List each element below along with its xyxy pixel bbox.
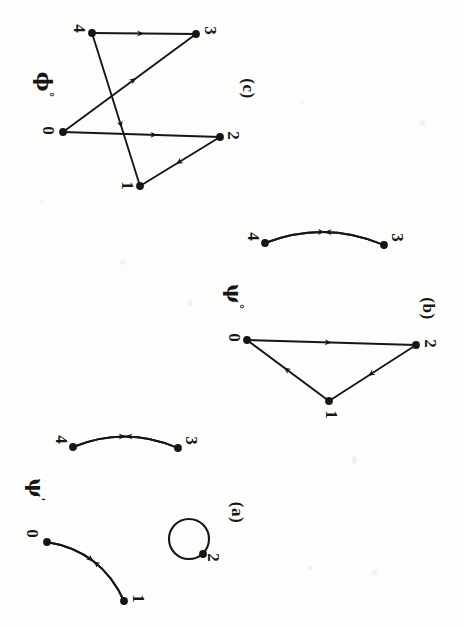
paper-speckle bbox=[372, 570, 377, 575]
panel-caption-c: (c) bbox=[240, 73, 257, 105]
graph-node-dot bbox=[381, 242, 387, 248]
paper-speckle bbox=[420, 120, 425, 125]
graph-node-dot bbox=[137, 183, 143, 189]
map-label-superscript: ° bbox=[42, 92, 55, 98]
node-label-3: 3 bbox=[202, 24, 219, 38]
graph-node-dot bbox=[60, 129, 66, 135]
node-label-4: 4 bbox=[71, 22, 88, 36]
map-label-base: ψ bbox=[222, 284, 247, 304]
graph-node-dot bbox=[121, 598, 127, 604]
graph-edge bbox=[265, 232, 384, 245]
graph-edge bbox=[92, 33, 140, 186]
map-label-superscript: ' bbox=[34, 498, 47, 501]
node-label-0: 0 bbox=[40, 124, 57, 138]
paper-speckle bbox=[352, 456, 357, 464]
graph-edge bbox=[140, 137, 220, 186]
graph-figure-svg bbox=[0, 0, 464, 627]
node-label-1: 1 bbox=[119, 179, 136, 193]
node-label-4: 4 bbox=[53, 433, 70, 447]
panel-caption-b: (b) bbox=[420, 293, 437, 325]
graph-edge bbox=[63, 132, 220, 137]
panel-caption-a: (a) bbox=[229, 497, 246, 529]
paper-speckle bbox=[188, 300, 192, 306]
node-label-1: 1 bbox=[130, 592, 147, 606]
map-label-c: ϕ° bbox=[34, 69, 55, 101]
paper-speckle bbox=[40, 200, 44, 204]
map-label-b: ψ° bbox=[224, 281, 245, 313]
node-label-1: 1 bbox=[323, 408, 340, 422]
node-label-3: 3 bbox=[183, 434, 200, 448]
node-label-0: 0 bbox=[226, 331, 243, 345]
map-label-base: ψ bbox=[24, 478, 49, 498]
paper-speckle bbox=[300, 100, 304, 104]
graph-node-dot bbox=[175, 445, 181, 451]
node-label-2: 2 bbox=[205, 551, 222, 565]
map-label-a: ψ' bbox=[26, 474, 47, 506]
node-label-2: 2 bbox=[225, 129, 242, 143]
figure-page: 43012(a)ψ'43021(b)ψ°43021(c)ϕ° bbox=[0, 0, 464, 627]
node-label-0: 0 bbox=[24, 527, 41, 541]
graph-edge bbox=[247, 340, 329, 401]
map-label-superscript: ° bbox=[232, 304, 245, 310]
graph-edge bbox=[73, 436, 178, 448]
graph-node-dot bbox=[217, 134, 223, 140]
node-label-4: 4 bbox=[245, 230, 262, 244]
graph-node-dot bbox=[326, 398, 332, 404]
paper-speckle bbox=[308, 566, 312, 570]
map-label-base: ϕ bbox=[32, 72, 57, 92]
graph-edge bbox=[47, 542, 124, 601]
graph-node-dot bbox=[262, 240, 268, 246]
graph-node-dot bbox=[244, 337, 250, 343]
graph-node-dot bbox=[193, 31, 199, 37]
node-label-2: 2 bbox=[422, 337, 439, 351]
graph-node-dot bbox=[44, 539, 50, 545]
graph-edge bbox=[63, 34, 196, 132]
graph-edge bbox=[329, 345, 416, 401]
graph-node-dot bbox=[70, 444, 76, 450]
node-label-3: 3 bbox=[389, 231, 406, 245]
graph-node-dot bbox=[89, 30, 95, 36]
graph-node-dot bbox=[413, 342, 419, 348]
graph-edge bbox=[47, 542, 124, 601]
paper-speckle bbox=[120, 260, 125, 265]
